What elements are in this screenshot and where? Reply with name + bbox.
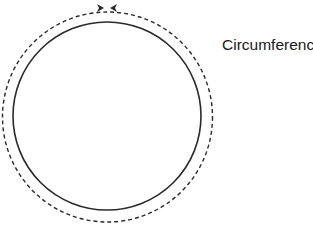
circumference-label: Circumference [222,36,313,54]
solid-circle [13,22,201,210]
arrow-right-icon [97,4,104,12]
circle-diagram [0,0,313,228]
arrow-left-icon [110,4,117,12]
dashed-circumference-circle [3,12,213,222]
arrowheads-icon [97,4,117,12]
